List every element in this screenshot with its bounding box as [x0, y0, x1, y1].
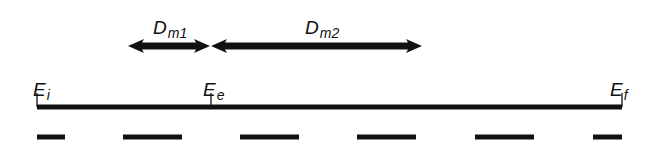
timeline-bar	[37, 105, 622, 110]
arrow-dm1	[128, 39, 210, 53]
dash-segment-3	[240, 135, 299, 140]
label-ei-sub: i	[47, 87, 50, 103]
label-ee: Ee	[203, 80, 224, 99]
label-ee-sub: e	[217, 87, 225, 103]
dashed-segments	[37, 135, 622, 140]
dash-segment-4	[357, 135, 416, 140]
label-dm2: Dm2	[305, 18, 339, 37]
label-ei: Ei	[33, 80, 50, 99]
double-arrows	[128, 39, 422, 53]
dash-segment-1	[37, 135, 65, 140]
label-ef-sub: f	[624, 87, 628, 103]
dash-segment-2	[123, 135, 182, 140]
arrow-dm2	[211, 39, 422, 53]
label-dm2-main: D	[305, 17, 319, 38]
label-ef-main: E	[610, 79, 623, 100]
dash-segment-5	[475, 135, 534, 140]
label-dm1: Dm1	[153, 18, 187, 37]
label-ei-main: E	[33, 79, 46, 100]
label-dm1-main: D	[153, 17, 167, 38]
label-dm1-sub: m1	[168, 25, 187, 41]
dash-segment-6	[593, 135, 622, 140]
label-ef: Ef	[610, 80, 628, 99]
label-ee-main: E	[203, 79, 216, 100]
label-dm2-sub: m2	[320, 25, 339, 41]
timeline	[37, 105, 622, 110]
